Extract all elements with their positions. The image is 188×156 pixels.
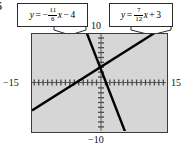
y-axis-min-label: −10 <box>88 134 104 145</box>
equation-left-constant-op: − <box>64 10 69 20</box>
equation-right-constant-op: + <box>149 10 154 20</box>
equation-right-numerator: 7 <box>136 7 142 14</box>
graph-canvas <box>32 34 166 131</box>
equation-callout-right: y = 7 12 x + 3 <box>109 3 173 27</box>
equation-left-numerator: 11 <box>48 7 57 14</box>
equation-left-equals: = <box>36 10 41 20</box>
plot-line-positive-slope <box>32 34 155 110</box>
equation-left-lhs: y <box>30 10 34 20</box>
y-axis-max-label: 10 <box>91 20 101 31</box>
x-axis-max-label: 15 <box>171 77 181 88</box>
equation-callout-left: y = − 11 6 x − 4 <box>17 3 88 27</box>
equation-right-lhs: y <box>121 10 125 20</box>
equation-left-constant: 4 <box>70 10 75 20</box>
equation-left-fraction: 11 6 <box>48 7 57 23</box>
equation-left-denominator: 6 <box>50 16 56 23</box>
equation-left-sign: − <box>42 10 47 20</box>
equation-right-equals: = <box>127 10 132 20</box>
x-axis-min-label: −15 <box>3 77 19 88</box>
equation-left-text: y = − 11 6 x − 4 <box>30 7 75 23</box>
equation-right-constant: 3 <box>156 10 161 20</box>
graph-screen <box>31 33 168 133</box>
equation-right-variable: x <box>144 10 148 20</box>
equation-right-text: y = 7 12 x + 3 <box>121 7 161 23</box>
figure-number-marker: 5 <box>0 0 5 13</box>
equation-right-denominator: 12 <box>134 16 143 23</box>
x-axis <box>32 80 166 86</box>
equation-right-fraction: 7 12 <box>134 7 143 23</box>
equation-left-variable: x <box>58 10 62 20</box>
